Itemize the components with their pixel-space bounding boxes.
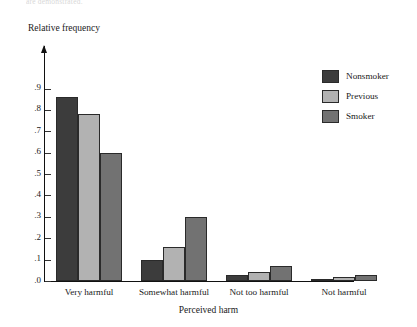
bar bbox=[56, 97, 78, 281]
y-tick: .0 bbox=[45, 281, 51, 282]
y-tick-label: .0 bbox=[34, 275, 41, 286]
category-label: Not too harmful bbox=[229, 287, 288, 297]
legend-item: Smoker bbox=[322, 106, 389, 126]
y-tick-label: .9 bbox=[34, 82, 41, 93]
bar bbox=[163, 247, 185, 281]
bar bbox=[141, 260, 163, 281]
y-tick-label: .3 bbox=[34, 210, 41, 221]
legend-swatch bbox=[322, 90, 339, 103]
y-tick-label: .8 bbox=[34, 103, 41, 114]
bar bbox=[333, 277, 355, 281]
category-label: Very harmful bbox=[65, 287, 114, 297]
y-tick-label: .5 bbox=[34, 168, 41, 179]
bar bbox=[185, 217, 207, 281]
legend-item: Nonsmoker bbox=[322, 66, 389, 86]
y-tick-label: .7 bbox=[34, 125, 41, 136]
plot-area: .0.1.2.3.4.5.6.7.8.9 Very harmfulSomewha… bbox=[44, 40, 354, 282]
legend-swatch bbox=[322, 110, 339, 123]
y-tick: .8 bbox=[45, 110, 51, 111]
bar bbox=[355, 275, 377, 281]
bar bbox=[311, 279, 333, 281]
y-tick-label: .4 bbox=[34, 189, 41, 200]
y-tick-label: .2 bbox=[34, 232, 41, 243]
bar bbox=[270, 266, 292, 281]
y-axis-title: Relative frequency bbox=[28, 23, 100, 33]
y-tick: .1 bbox=[45, 260, 51, 261]
legend-label: Previous bbox=[346, 91, 378, 101]
category-label: Not harmful bbox=[321, 287, 366, 297]
bar bbox=[226, 275, 248, 281]
y-tick: .7 bbox=[45, 131, 51, 132]
y-tick: .2 bbox=[45, 238, 51, 239]
legend: NonsmokerPreviousSmoker bbox=[322, 66, 389, 126]
legend-label: Smoker bbox=[346, 111, 375, 121]
legend-item: Previous bbox=[322, 86, 389, 106]
x-axis-title: Perceived harm bbox=[0, 305, 417, 315]
y-tick: .9 bbox=[45, 89, 51, 90]
y-tick-label: .6 bbox=[34, 146, 41, 157]
y-tick: .6 bbox=[45, 153, 51, 154]
y-tick: .4 bbox=[45, 195, 51, 196]
y-axis-arrow-icon bbox=[41, 45, 47, 53]
bar bbox=[78, 114, 100, 281]
bar bbox=[100, 153, 122, 281]
legend-label: Nonsmoker bbox=[346, 71, 389, 81]
y-tick-label: .1 bbox=[34, 253, 41, 264]
bar-chart-figure: are demonstrated. Relative frequency .0.… bbox=[0, 0, 417, 327]
y-axis-line bbox=[44, 46, 45, 282]
bar bbox=[248, 272, 270, 281]
x-axis-line bbox=[44, 281, 354, 282]
y-tick: .3 bbox=[45, 217, 51, 218]
legend-swatch bbox=[322, 70, 339, 83]
top-caption: are demonstrated. bbox=[26, 0, 83, 4]
y-tick: .5 bbox=[45, 174, 51, 175]
category-label: Somewhat harmful bbox=[139, 287, 209, 297]
